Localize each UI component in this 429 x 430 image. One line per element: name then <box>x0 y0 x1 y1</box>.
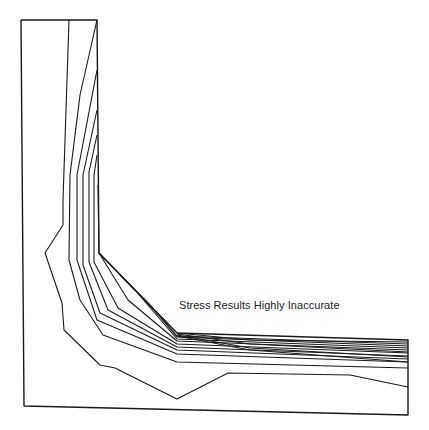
contour-line <box>77 70 408 362</box>
contour-line <box>98 185 408 350</box>
stress-contour-diagram <box>0 0 429 430</box>
inaccuracy-annotation: Stress Results Highly Inaccurate <box>179 299 340 311</box>
stress-contour-lines <box>45 20 408 399</box>
contour-line <box>89 135 408 356</box>
contour-line <box>83 110 408 359</box>
contour-line <box>94 155 408 353</box>
